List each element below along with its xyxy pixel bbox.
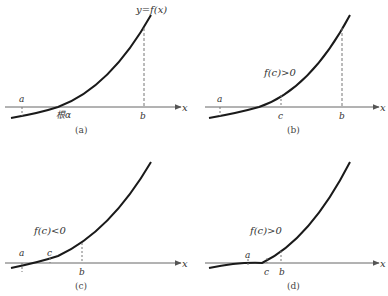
annotation: f(c)>0 <box>263 67 296 78</box>
label-a: a <box>245 250 250 260</box>
curve-label: y=f(x) <box>135 4 167 15</box>
label-a: a <box>19 94 24 104</box>
label-b: b <box>339 111 345 121</box>
axis-label-x: x <box>380 102 386 113</box>
panel-d: a c b f(c)>0 x (d) <box>205 162 386 291</box>
annotation: f(c)>0 <box>249 225 282 236</box>
bisection-method-diagram: a 根α b y=f(x) x (a) a c b f(c)>0 x (b) a… <box>0 0 388 296</box>
label-a: a <box>19 248 24 258</box>
axis-label-x: x <box>182 102 188 113</box>
caption-a: (a) <box>75 125 87 135</box>
label-c: c <box>278 111 283 121</box>
function-curve <box>209 162 350 268</box>
axis-label-x: x <box>182 258 188 269</box>
panel-b: a c b f(c)>0 x (b) <box>205 15 386 135</box>
caption-b: (b) <box>287 125 300 135</box>
label-c: c <box>47 248 52 258</box>
function-curve <box>11 162 151 268</box>
label-root: 根α <box>56 110 71 120</box>
panel-a: a 根α b y=f(x) x (a) <box>5 4 188 135</box>
label-a: a <box>217 94 222 104</box>
panel-c: a c b f(c)<0 x (c) <box>5 162 188 291</box>
label-c: c <box>264 267 269 277</box>
label-b: b <box>79 267 85 277</box>
annotation: f(c)<0 <box>33 225 66 236</box>
axis-label-x: x <box>380 258 386 269</box>
caption-d: (d) <box>287 281 300 291</box>
caption-c: (c) <box>75 281 87 291</box>
function-curve <box>11 15 151 118</box>
label-b: b <box>140 111 146 121</box>
label-b: b <box>279 267 285 277</box>
